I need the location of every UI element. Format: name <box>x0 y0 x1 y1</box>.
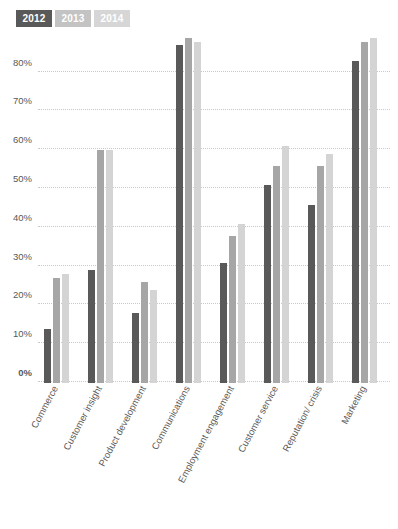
y-tick-label: 30% <box>13 250 32 261</box>
bar-2014 <box>238 224 245 383</box>
bar-groups <box>38 26 390 383</box>
x-axis-tick-text: Customer insight <box>61 384 104 452</box>
legend-item-2012[interactable]: 2012 <box>16 10 52 27</box>
legend-item-2014[interactable]: 2014 <box>94 10 130 27</box>
y-tick-label: 50% <box>13 172 32 183</box>
y-tick-label: 40% <box>13 211 32 222</box>
bar-2014 <box>370 38 377 383</box>
bar-2014 <box>326 154 333 383</box>
x-axis-tick-text: Marketing <box>339 384 368 426</box>
bar-2014 <box>150 290 157 383</box>
bar-chart: 201220132014 0%10%20%30%40%50%60%70%80% … <box>0 0 398 529</box>
bar-2014 <box>62 274 69 383</box>
y-tick-label: 80% <box>13 56 32 67</box>
bar-2012 <box>88 270 95 383</box>
x-axis-tick-text: Customer service <box>236 384 280 454</box>
bar-2014 <box>194 42 201 383</box>
y-tick-label: 0% <box>18 367 32 378</box>
bar-2013 <box>229 236 236 383</box>
x-axis-labels: CommerceCustomer insightProduct developm… <box>38 383 390 529</box>
bar-2014 <box>282 146 289 383</box>
x-axis-tick-text: Commerce <box>28 384 60 430</box>
x-axis-tick-text: Reputation/ crisis <box>280 384 324 454</box>
x-axis-tick-text: Product development <box>96 384 148 468</box>
bar-group <box>88 26 113 383</box>
legend-item-2013[interactable]: 2013 <box>55 10 91 27</box>
bar-group <box>44 26 69 383</box>
bar-2013 <box>317 166 324 383</box>
x-axis-tick-text: Communications <box>149 384 192 452</box>
bar-2014 <box>106 150 113 383</box>
bar-2012 <box>220 263 227 383</box>
chart-legend: 201220132014 <box>16 10 130 27</box>
y-tick-label: 20% <box>13 289 32 300</box>
y-tick-label: 60% <box>13 134 32 145</box>
plot-area: 0%10%20%30%40%50%60%70%80% <box>38 26 390 383</box>
y-tick-label: 70% <box>13 95 32 106</box>
y-tick-label: 10% <box>13 328 32 339</box>
bar-2013 <box>53 278 60 383</box>
bar-2012 <box>44 329 51 383</box>
bar-2013 <box>97 150 104 383</box>
bar-2013 <box>273 166 280 383</box>
